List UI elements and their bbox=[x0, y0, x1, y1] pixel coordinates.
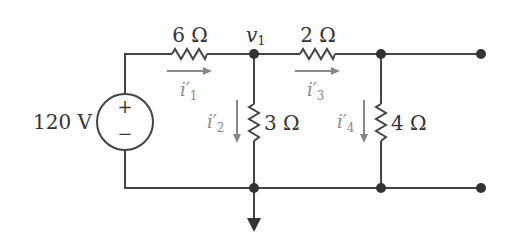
current-label-i1: i′1 bbox=[180, 79, 197, 103]
current-label-i4: i′4 bbox=[337, 111, 355, 135]
resistor-4ohm bbox=[376, 104, 386, 141]
voltage-source: + − bbox=[97, 94, 153, 150]
current-label-i2: i′2 bbox=[207, 111, 224, 135]
minus-sign: − bbox=[117, 123, 132, 144]
current-label-i3: i′3 bbox=[307, 79, 324, 103]
terminal-bottom bbox=[476, 183, 486, 193]
terminal-top bbox=[476, 49, 486, 59]
resistor-2ohm bbox=[300, 49, 335, 59]
plus-sign: + bbox=[117, 96, 132, 117]
source-label: 120 V bbox=[33, 110, 93, 134]
resistor-6ohm bbox=[172, 49, 207, 59]
node-label-v1: v1 bbox=[246, 23, 266, 48]
ground-icon bbox=[247, 218, 261, 232]
circuit-diagram: + − 120 V 6 Ω 3 Ω 2 Ω 4 Ω v1 i′1 i′2 i′3… bbox=[0, 0, 520, 243]
node-bottom-right bbox=[376, 183, 386, 193]
label-2ohm: 2 Ω bbox=[300, 23, 336, 47]
resistor-3ohm bbox=[249, 104, 259, 141]
wires bbox=[125, 54, 481, 218]
node-v1 bbox=[249, 49, 259, 59]
node-top-right bbox=[376, 49, 386, 59]
node-bottom-mid bbox=[249, 183, 259, 193]
label-4ohm: 4 Ω bbox=[391, 111, 427, 135]
circuit-svg: + − 120 V 6 Ω 3 Ω 2 Ω 4 Ω v1 i′1 i′2 i′3… bbox=[0, 0, 520, 243]
label-6ohm: 6 Ω bbox=[172, 23, 208, 47]
label-3ohm: 3 Ω bbox=[264, 111, 300, 135]
